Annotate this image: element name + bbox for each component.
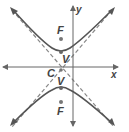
vertex-upper-label: V [62, 53, 71, 65]
x-axis-label: x [110, 69, 117, 80]
focus-upper-point [59, 37, 63, 41]
hyperbola-graph: F V C V F x y [0, 0, 129, 132]
center-label: C [47, 67, 56, 79]
center-point [59, 68, 63, 72]
focus-lower-point [59, 100, 63, 104]
hyperbola-figure: F V C V F x y [0, 0, 129, 132]
focus-lower-label: F [57, 105, 64, 117]
vertex-lower-label: V [57, 75, 66, 87]
y-axis-label: y [75, 4, 82, 15]
focus-upper-label: F [57, 24, 64, 36]
